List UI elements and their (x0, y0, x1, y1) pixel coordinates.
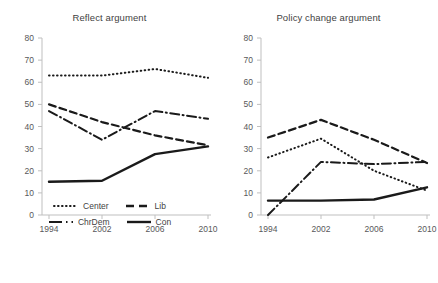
y-tick-label: 30 (244, 144, 254, 154)
legend-entry-chrdem: ChrDem (48, 217, 110, 227)
y-tick-marks-right (257, 38, 261, 215)
y-tick-marks-left (38, 38, 42, 215)
y-tick-label: 80 (25, 33, 35, 43)
y-tick-label: 10 (244, 188, 254, 198)
series-line-chrdem (49, 111, 208, 140)
series-line-chrdem (268, 162, 427, 215)
x-tick-label: 2006 (365, 224, 384, 234)
x-tick-marks-right (268, 215, 427, 219)
x-tick-label: 2010 (418, 224, 437, 234)
y-tick-label: 30 (25, 144, 35, 154)
figure-two-panel-line-charts: Reflect argument (0, 0, 438, 283)
legend-left: Center Lib ChrDem (0, 195, 219, 240)
legend-entry-con: Con (126, 217, 172, 227)
chart-panel-policy-change-argument: Policy change argument 80 (219, 0, 438, 240)
y-tick-label: 40 (25, 122, 35, 132)
series-line-lib (268, 120, 427, 163)
chart-panel-reflect-argument: Reflect argument (0, 0, 219, 240)
legend-label-con: Con (156, 217, 172, 227)
y-tick-label: 50 (25, 99, 35, 109)
x-tick-label: 1994 (259, 224, 278, 234)
y-tick-label: 80 (244, 33, 254, 43)
legend-label-center: Center (83, 201, 109, 211)
y-tick-label: 20 (25, 166, 35, 176)
series-line-con (268, 187, 427, 200)
series-line-center (49, 69, 208, 78)
y-tick-label: 50 (244, 99, 254, 109)
x-tick-label: 2002 (312, 224, 331, 234)
legend-key-dashdot-icon (48, 218, 74, 226)
legend-entry-lib: Lib (125, 201, 166, 211)
legend-key-dashed-icon (125, 202, 151, 210)
y-tick-label: 40 (244, 122, 254, 132)
series-line-center (268, 139, 427, 191)
legend-label-chrdem: ChrDem (78, 217, 110, 227)
legend-key-solid-icon (126, 218, 152, 226)
y-tick-label: 60 (244, 77, 254, 87)
plot-area-right: 80 70 60 50 40 30 20 10 0 1994 2002 2006… (219, 0, 438, 240)
y-tick-label: 70 (25, 55, 35, 65)
legend-label-lib: Lib (155, 201, 166, 211)
y-tick-label: 70 (244, 55, 254, 65)
y-tick-label: 20 (244, 166, 254, 176)
legend-key-dotted-icon (53, 202, 79, 210)
legend-entry-center: Center (53, 201, 109, 211)
y-tick-label: 60 (25, 77, 35, 87)
series-line-con (49, 146, 208, 181)
y-tick-label: 0 (248, 210, 253, 220)
